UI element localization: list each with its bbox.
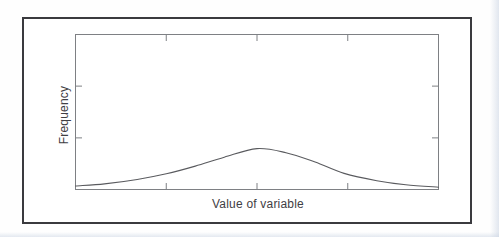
plot-area xyxy=(75,34,439,190)
plot-box-border xyxy=(76,35,439,190)
plot-box-svg xyxy=(75,34,439,190)
y-axis-label: Frequency xyxy=(57,86,71,145)
frequency-distribution-curve xyxy=(76,148,439,187)
x-axis-label: Value of variable xyxy=(212,197,304,211)
page-edge-shadow-bottom xyxy=(0,232,499,237)
page-edge-shadow-right xyxy=(490,0,499,237)
